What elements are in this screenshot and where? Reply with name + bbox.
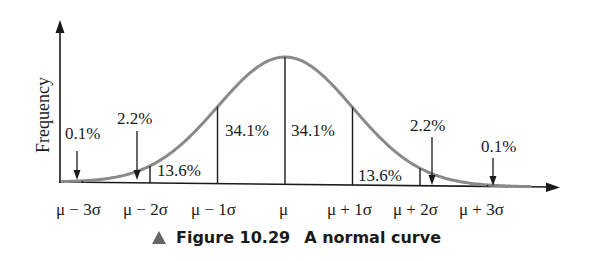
figure-number: Figure 10.29 [176, 228, 290, 247]
x-axis-arrow-icon [546, 183, 560, 193]
tick-label-mu: μ [279, 200, 288, 219]
tick-label-mu-minus-2sigma: μ − 2σ [123, 200, 168, 219]
region-label-neg-1-0: 34.1% [225, 121, 269, 140]
figure-caption: Figure 10.29 A normal curve [152, 225, 441, 249]
y-axis-arrow-icon [56, 20, 65, 33]
region-label-pos-2-3: 2.2% [410, 116, 445, 135]
y-axis-label: Frequency [33, 77, 53, 153]
region-label-neg-tail: 0.1% [65, 124, 100, 143]
y-axis [56, 20, 65, 183]
tick-label-mu-plus-3sigma: μ + 3σ [459, 200, 504, 219]
tick-label-mu-plus-1sigma: μ + 1σ [327, 200, 372, 219]
figure-title: A normal curve [304, 228, 441, 247]
region-label-pos-tail: 0.1% [481, 137, 516, 156]
region-label-neg-2-1: 13.6% [157, 161, 201, 180]
tick-label-mu-minus-1sigma: μ − 1σ [191, 200, 236, 219]
triangle-marker-icon [152, 231, 166, 244]
tick-label-mu-plus-2sigma: μ + 2σ [393, 200, 438, 219]
region-label-neg-3-2: 2.2% [117, 109, 152, 128]
region-label-pos-1-2: 13.6% [358, 166, 402, 185]
region-label-pos-0-1: 34.1% [291, 121, 335, 140]
tick-label-mu-minus-3sigma: μ − 3σ [56, 200, 101, 219]
normal-curve-chart: Frequency 0.1% 2.2% 13.6% 34.1% 34.1% 13… [0, 0, 603, 261]
